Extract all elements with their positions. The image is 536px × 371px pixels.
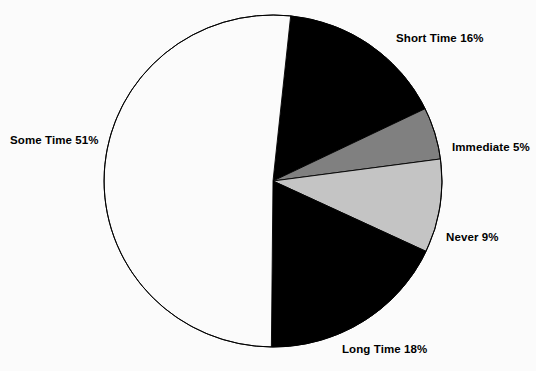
slice-label-never: Never 9%: [446, 231, 499, 243]
pie-chart-page: Short Time 16% Immediate 5% Never 9% Lon…: [0, 0, 536, 371]
slice-label-some-time: Some Time 51%: [10, 134, 99, 146]
pie-slices-group: [104, 15, 442, 347]
slice-label-immediate: Immediate 5%: [452, 141, 530, 153]
pie-slice-some-time[interactable]: [104, 15, 291, 347]
slice-label-short-time: Short Time 16%: [396, 32, 483, 44]
pie-chart-graphic: [0, 0, 536, 371]
slice-label-long-time: Long Time 18%: [342, 343, 427, 355]
